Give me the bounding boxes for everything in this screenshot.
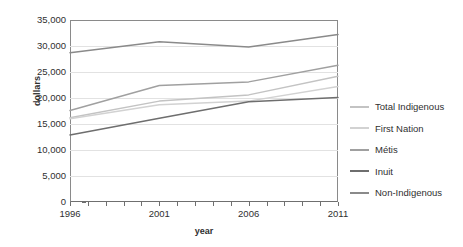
y-tick-label: 35,000 (20, 15, 66, 25)
x-tick-mark (106, 202, 107, 206)
legend-item[interactable]: Métis (350, 139, 462, 161)
series-line (70, 76, 338, 118)
legend-swatch-icon (350, 170, 369, 172)
x-tick-mark (231, 202, 232, 206)
legend-swatch-icon (350, 149, 369, 151)
x-tick-mark (88, 202, 89, 206)
x-tick-mark (302, 202, 303, 206)
legend-item[interactable]: First Nation (350, 118, 462, 140)
x-tick-mark (267, 202, 268, 206)
plot-area (70, 20, 338, 202)
series-line (70, 87, 338, 119)
legend-label: Non-Indigenous (375, 187, 442, 198)
x-tick-mark (249, 202, 250, 206)
line-chart: dollars 05,00010,00015,00020,00025,00030… (0, 0, 463, 247)
legend-swatch-icon (350, 192, 369, 194)
legend-label: Total Indigenous (375, 101, 444, 112)
x-tick-mark (124, 202, 125, 206)
x-tick-mark (177, 202, 178, 206)
x-tick-mark (141, 202, 142, 206)
x-tick-label: 2001 (136, 208, 182, 219)
legend-label: Inuit (375, 166, 393, 177)
legend-item[interactable]: Total Indigenous (350, 96, 462, 118)
y-tick-label: 25,000 (20, 67, 66, 77)
y-tick-label: 5,000 (20, 171, 66, 181)
x-tick-mark (213, 202, 214, 206)
chart-legend: Total IndigenousFirst NationMétisInuitNo… (350, 96, 462, 204)
legend-label: Métis (375, 144, 398, 155)
y-tick-mark (82, 202, 86, 203)
y-tick-label: 30,000 (20, 41, 66, 51)
y-tick-label: 10,000 (20, 145, 66, 155)
legend-label: First Nation (375, 123, 424, 134)
x-tick-label: 2011 (315, 208, 361, 219)
x-tick-mark (159, 202, 160, 206)
legend-swatch-icon (350, 106, 369, 108)
series-lines (70, 20, 338, 202)
x-tick-mark (320, 202, 321, 206)
series-line (70, 35, 338, 53)
series-line (70, 65, 338, 110)
x-tick-label: 2006 (226, 208, 272, 219)
legend-item[interactable]: Inuit (350, 161, 462, 183)
x-tick-mark (195, 202, 196, 206)
x-tick-label: 1996 (47, 208, 93, 219)
x-tick-mark (338, 202, 339, 206)
y-tick-label: 0 (20, 197, 66, 207)
x-tick-mark (70, 202, 71, 206)
x-axis-title: year (70, 226, 338, 236)
legend-item[interactable]: Non-Indigenous (350, 182, 462, 204)
y-tick-label: 20,000 (20, 93, 66, 103)
y-tick-label: 15,000 (20, 119, 66, 129)
x-tick-mark (284, 202, 285, 206)
legend-swatch-icon (350, 127, 369, 129)
